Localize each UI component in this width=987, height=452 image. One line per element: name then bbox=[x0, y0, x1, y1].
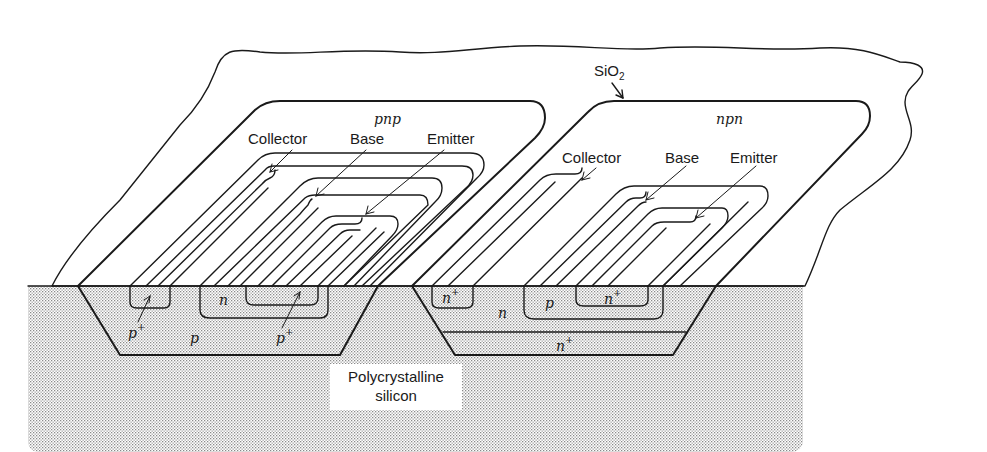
sio2-pointer-arrow bbox=[612, 83, 623, 98]
pnp-collector-label: Collector bbox=[248, 130, 307, 147]
npn-base-region-label: p bbox=[545, 295, 554, 311]
npn-base-label: Base bbox=[665, 149, 699, 166]
npn-collector-label: Collector bbox=[562, 149, 621, 166]
substrate-label-line2: silicon bbox=[375, 387, 417, 404]
pnp-emitter-label: Emitter bbox=[427, 130, 475, 147]
substrate-label-line1: Polycrystalline bbox=[348, 368, 444, 385]
sio2-label: SiO2 bbox=[594, 62, 625, 82]
transistor-cross-section-diagram: SiO2 pnp Collector Base Emitter p+ n p p… bbox=[0, 0, 987, 452]
pnp-tub-region-label: p bbox=[190, 330, 199, 346]
npn-tub-region-label: n bbox=[498, 305, 507, 321]
pnp-base-label: Base bbox=[350, 130, 384, 147]
npn-emitter-label: Emitter bbox=[730, 149, 778, 166]
pnp-base-region-label: n bbox=[219, 292, 228, 308]
npn-device-label: npn bbox=[716, 111, 743, 127]
pnp-device-label: pnp bbox=[374, 111, 401, 127]
substrate-label: Polycrystalline silicon bbox=[330, 364, 462, 410]
sio2-oxide-layer bbox=[28, 46, 923, 286]
